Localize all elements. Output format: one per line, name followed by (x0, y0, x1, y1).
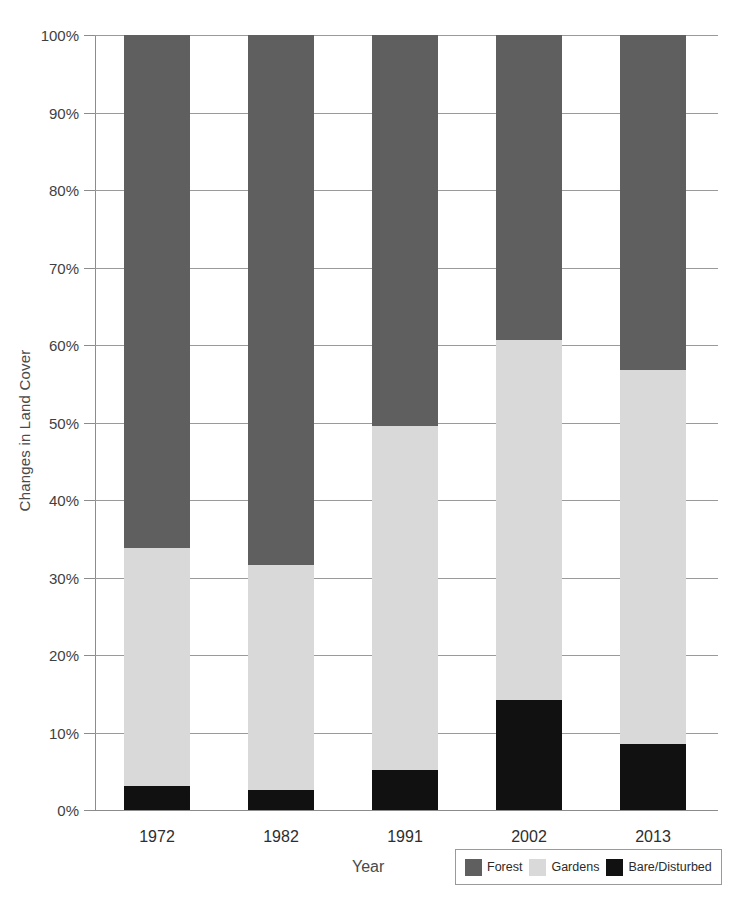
bar-group (620, 35, 686, 810)
legend-item: Bare/Disturbed (606, 859, 711, 876)
bar-segment-bare-disturbed (248, 790, 314, 810)
y-axis-tick-label: 10% (49, 724, 79, 741)
y-axis-tick (84, 345, 95, 346)
y-axis-tick-label: 40% (49, 492, 79, 509)
plot-area: 0%10%20%30%40%50%60%70%80%90%100%1972198… (95, 35, 715, 810)
bar-segment-forest (620, 35, 686, 370)
x-axis-tick-label: 1982 (221, 828, 341, 846)
y-axis-tick-label: 80% (49, 182, 79, 199)
y-axis-tick (84, 268, 95, 269)
bar-segment-forest (372, 35, 438, 426)
legend-swatch-icon (606, 859, 623, 876)
y-axis-tick (84, 35, 95, 36)
y-axis-tick (84, 733, 95, 734)
y-axis-tick (84, 810, 95, 811)
bar-group (248, 35, 314, 810)
chart-legend: ForestGardensBare/Disturbed (455, 849, 722, 885)
legend-item: Forest (465, 859, 522, 876)
bar-segment-gardens (248, 565, 314, 790)
x-axis-tick-label: 1991 (345, 828, 465, 846)
y-axis-tick (84, 500, 95, 501)
bar-segment-gardens (372, 426, 438, 769)
bar-segment-gardens (124, 548, 190, 786)
bar-segment-forest (248, 35, 314, 565)
bar-segment-gardens (620, 370, 686, 744)
y-axis-tick (84, 190, 95, 191)
y-axis-tick-label: 0% (57, 802, 79, 819)
legend-label: Gardens (551, 860, 599, 874)
x-axis-tick-label: 1972 (97, 828, 217, 846)
bar-segment-forest (496, 35, 562, 340)
y-axis-tick-label: 90% (49, 104, 79, 121)
bar-segment-bare-disturbed (372, 770, 438, 810)
stacked-bar-chart: Changes in Land Cover 0%10%20%30%40%50%6… (0, 0, 738, 907)
y-axis-tick-label: 50% (49, 414, 79, 431)
x-axis-tick-label: 2013 (593, 828, 713, 846)
legend-swatch-icon (529, 859, 546, 876)
bar-group (124, 35, 190, 810)
legend-label: Forest (487, 860, 522, 874)
y-axis-tick-label: 100% (41, 27, 79, 44)
y-axis-tick-label: 60% (49, 337, 79, 354)
legend-item: Gardens (529, 859, 599, 876)
y-axis-tick (84, 655, 95, 656)
bar-segment-bare-disturbed (124, 786, 190, 810)
x-axis-title: Year (352, 858, 384, 876)
bar-segment-bare-disturbed (620, 744, 686, 810)
bar-segment-bare-disturbed (496, 700, 562, 810)
gridline (95, 810, 718, 811)
bar-segment-gardens (496, 340, 562, 700)
y-axis-tick-label: 30% (49, 569, 79, 586)
legend-swatch-icon (465, 859, 482, 876)
y-axis-tick-label: 20% (49, 647, 79, 664)
bar-segment-forest (124, 35, 190, 548)
bar-group (496, 35, 562, 810)
x-axis-tick-label: 2002 (469, 828, 589, 846)
y-axis-tick (84, 578, 95, 579)
y-axis-tick (84, 113, 95, 114)
bar-group (372, 35, 438, 810)
y-axis-tick-label: 70% (49, 259, 79, 276)
y-axis-title: Changes in Land Cover (16, 301, 33, 561)
y-axis-tick (84, 423, 95, 424)
legend-label: Bare/Disturbed (628, 860, 711, 874)
